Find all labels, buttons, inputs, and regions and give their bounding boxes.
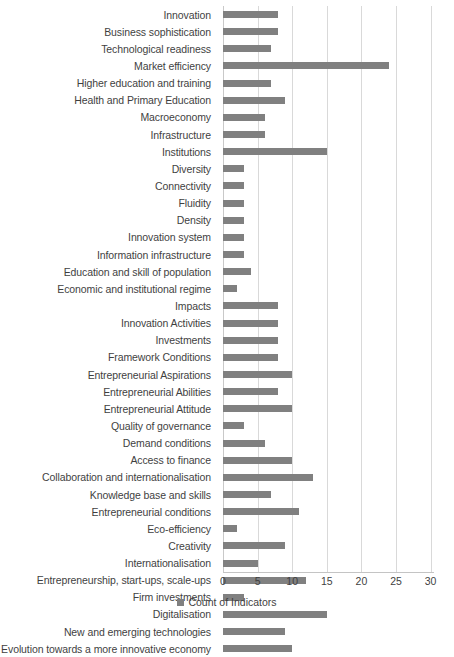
bar-row[interactable] [223, 126, 437, 143]
bar-row[interactable] [223, 160, 437, 177]
bar-row[interactable] [223, 109, 437, 126]
bar-row[interactable] [223, 640, 437, 657]
bar-row[interactable] [223, 57, 437, 74]
category-label: Knowledge base and skills [0, 489, 217, 501]
bar[interactable] [223, 337, 278, 344]
bar-row[interactable] [223, 40, 437, 57]
x-tick-label: 10 [286, 574, 298, 588]
category-label: Market efficiency [0, 60, 217, 72]
bar-row[interactable] [223, 6, 437, 23]
bar-row[interactable] [223, 143, 437, 160]
category-label-row: Access to finance [0, 452, 217, 469]
bar-row[interactable] [223, 400, 437, 417]
bar[interactable] [223, 217, 244, 224]
bar-row[interactable] [223, 177, 437, 194]
bar[interactable] [223, 457, 292, 464]
category-label-row: Macroeconomy [0, 109, 217, 126]
category-label: Higher education and training [0, 77, 217, 89]
category-label-row: Economic and institutional regime [0, 280, 217, 297]
category-label-row: Innovation system [0, 229, 217, 246]
bar[interactable] [223, 645, 292, 652]
bars-container [223, 6, 437, 572]
bar[interactable] [223, 114, 265, 121]
bar[interactable] [223, 45, 271, 52]
bar[interactable] [223, 525, 237, 532]
bar-row[interactable] [223, 555, 437, 572]
bar[interactable] [223, 268, 251, 275]
category-label-row: Fluidity [0, 195, 217, 212]
x-tick-label: 20 [356, 574, 368, 588]
category-label-row: Business sophistication [0, 23, 217, 40]
bar[interactable] [223, 234, 244, 241]
bar-row[interactable] [223, 435, 437, 452]
bar[interactable] [223, 388, 278, 395]
bar[interactable] [223, 62, 389, 69]
bar[interactable] [223, 251, 244, 258]
bar-row[interactable] [223, 537, 437, 554]
category-label-row: Innovation Activities [0, 315, 217, 332]
bar-row[interactable] [223, 75, 437, 92]
category-label: Creativity [0, 540, 217, 552]
bar[interactable] [223, 405, 292, 412]
bar[interactable] [223, 302, 278, 309]
bar-row[interactable] [223, 263, 437, 280]
x-tick-label: 5 [255, 574, 261, 588]
bar[interactable] [223, 542, 285, 549]
bar-row[interactable] [223, 349, 437, 366]
category-label: Health and Primary Education [0, 94, 217, 106]
bar[interactable] [223, 440, 265, 447]
bar[interactable] [223, 28, 278, 35]
category-label-row: Technological readiness [0, 40, 217, 57]
bar-row[interactable] [223, 486, 437, 503]
bar-row[interactable] [223, 315, 437, 332]
bar-row[interactable] [223, 520, 437, 537]
bar-row[interactable] [223, 606, 437, 623]
bar[interactable] [223, 354, 278, 361]
bar[interactable] [223, 491, 271, 498]
category-label: Entrepreneurial Attitude [0, 403, 217, 415]
bar[interactable] [223, 285, 237, 292]
bar-row[interactable] [223, 195, 437, 212]
bar-row[interactable] [223, 212, 437, 229]
category-label-row: Diversity [0, 160, 217, 177]
bar[interactable] [223, 508, 299, 515]
bar[interactable] [223, 148, 327, 155]
bar[interactable] [223, 628, 285, 635]
bar[interactable] [223, 80, 271, 87]
bar-row[interactable] [223, 246, 437, 263]
bar[interactable] [223, 474, 313, 481]
category-label: Business sophistication [0, 26, 217, 38]
category-label: Density [0, 214, 217, 226]
bar-row[interactable] [223, 280, 437, 297]
bar-row[interactable] [223, 23, 437, 40]
bar[interactable] [223, 131, 265, 138]
category-label: Innovation Activities [0, 317, 217, 329]
bar-row[interactable] [223, 297, 437, 314]
bar-row[interactable] [223, 623, 437, 640]
bar-row[interactable] [223, 417, 437, 434]
legend-swatch-icon [177, 599, 184, 606]
category-label-row: Collaboration and internationalisation [0, 469, 217, 486]
bar[interactable] [223, 182, 244, 189]
bar[interactable] [223, 97, 285, 104]
bar[interactable] [223, 320, 278, 327]
bar-row[interactable] [223, 366, 437, 383]
x-axis-ticks: 051015202530 [223, 574, 437, 590]
category-label-row: Innovation [0, 6, 217, 23]
bar[interactable] [223, 371, 292, 378]
bar[interactable] [223, 165, 244, 172]
bar[interactable] [223, 560, 258, 567]
bar[interactable] [223, 422, 244, 429]
bar-row[interactable] [223, 229, 437, 246]
bar[interactable] [223, 11, 278, 18]
bar-row[interactable] [223, 452, 437, 469]
bar-row[interactable] [223, 469, 437, 486]
bar[interactable] [223, 200, 244, 207]
bar-row[interactable] [223, 503, 437, 520]
bar[interactable] [223, 611, 327, 618]
bar-row[interactable] [223, 332, 437, 349]
category-label: Framework Conditions [0, 351, 217, 363]
bar-row[interactable] [223, 383, 437, 400]
bar-row[interactable] [223, 92, 437, 109]
